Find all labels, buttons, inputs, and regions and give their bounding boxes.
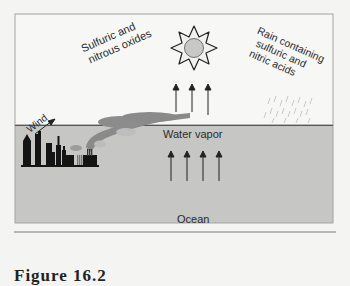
figure-caption: Figure 16.2 bbox=[14, 266, 107, 286]
ocean-label: Ocean bbox=[177, 213, 209, 225]
water-vapor-label: Water vapor bbox=[163, 128, 223, 140]
